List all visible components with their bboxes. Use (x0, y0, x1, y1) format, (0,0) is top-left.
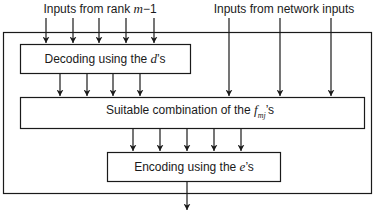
encoding-box-label: Encoding using the e’s (134, 160, 254, 174)
combination-box-label: Suitable combination of the fmj’s (106, 103, 274, 122)
decoding-output-arrows (60, 74, 140, 96)
decoding-suffix: ’s (157, 52, 165, 66)
encoding-suffix: ’s (245, 160, 253, 174)
network-inputs-label: Inputs from network inputs (214, 2, 355, 16)
network-unit-diagram: Inputs from rank m−1 Inputs from network… (0, 0, 376, 213)
combination-subscript: mj (258, 111, 266, 120)
rank-inputs-label: Inputs from rank m−1 (43, 2, 156, 16)
rank-inputs-label-text: Inputs from rank (43, 2, 133, 16)
network-input-arrows (229, 18, 331, 96)
combination-output-arrows (133, 129, 241, 151)
encoding-text: Encoding using the (134, 160, 239, 174)
decoding-text: Decoding using the (44, 52, 150, 66)
decoding-box-label: Decoding using the d’s (44, 52, 165, 66)
rank-input-arrows (46, 18, 154, 43)
rank-offset: −1 (143, 2, 157, 16)
combination-text: Suitable combination of the (106, 103, 254, 117)
combination-suffix: ’s (266, 103, 274, 117)
